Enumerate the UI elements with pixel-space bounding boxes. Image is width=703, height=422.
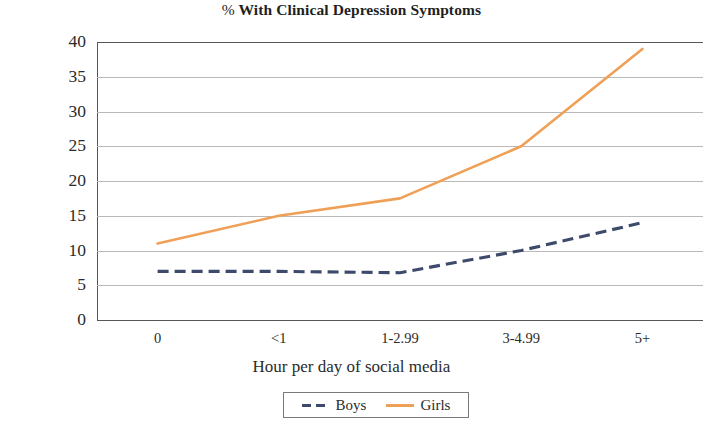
y-axis-tick-label: 40 [42,33,86,51]
y-axis-tick-label: 20 [42,172,86,190]
gridline [97,112,703,113]
y-axis-tick-label: 25 [42,137,86,155]
plot-bottom-axis-line [97,320,703,321]
y-axis-tick-label: 15 [42,207,86,225]
legend-item-girls: Girls [386,398,450,413]
gridline [97,285,703,286]
gridline [97,181,703,182]
chart-title-text: With Clinical Depression Symptoms [235,1,481,18]
plot-top-border [97,42,703,43]
y-axis-tick-label: 5 [42,276,86,294]
x-axis-tick-label: 3-4.99 [461,331,581,346]
y-axis-tick-label: 0 [42,311,86,329]
y-axis-tick-label: 10 [42,242,86,260]
series-line-boys [158,223,643,273]
y-axis-tick-label: 35 [42,68,86,86]
gridline [97,216,703,217]
chart-title-percent-symbol: % [222,1,235,18]
x-axis-tick-label: <1 [219,331,339,346]
legend-item-boys: Boys [302,398,367,413]
dashed-line-swatch-icon [302,404,330,407]
legend-label-girls: Girls [420,398,450,413]
line-chart: % With Clinical Depression Symptoms 0510… [0,0,703,422]
y-axis-tick-label: 30 [42,103,86,121]
x-axis-tick-label: 1-2.99 [340,331,460,346]
gridline [97,77,703,78]
x-axis-title: Hour per day of social media [0,357,703,377]
x-axis-tick-label: 0 [98,331,218,346]
solid-line-swatch-icon [386,404,414,407]
gridline [97,146,703,147]
chart-title: % With Clinical Depression Symptoms [0,1,703,19]
chart-legend: Boys Girls [283,392,469,418]
x-axis-tick-label: 5+ [582,331,702,346]
gridline [97,251,703,252]
legend-label-boys: Boys [336,398,367,413]
